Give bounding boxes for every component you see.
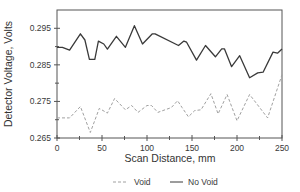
legend: Void No Void (113, 177, 218, 187)
y-tick-label: 0.275 (30, 96, 52, 106)
x-tick-label: 250 (275, 143, 289, 153)
y-tick-label: 0.285 (30, 60, 52, 70)
x-axis-title: Scan Distance, mm (124, 152, 215, 164)
series-no-void-line (57, 26, 282, 78)
x-tick-label: 0 (55, 143, 60, 153)
legend-void-label: Void (134, 177, 151, 187)
series-layer (57, 26, 282, 133)
legend-no-void-label: No Void (188, 177, 218, 187)
line-chart: 0.2650.2750.2850.295 050100150200250 Det… (0, 0, 300, 192)
y-tick-label: 0.265 (30, 133, 52, 143)
x-tick-label: 200 (230, 143, 244, 153)
y-axis-title: Detector Voltage, Volts (2, 21, 14, 127)
series-void-line (57, 75, 282, 133)
y-tick-label: 0.295 (30, 23, 52, 33)
y-axis-ticks: 0.2650.2750.2850.295 (30, 23, 60, 143)
x-tick-label: 50 (97, 143, 107, 153)
